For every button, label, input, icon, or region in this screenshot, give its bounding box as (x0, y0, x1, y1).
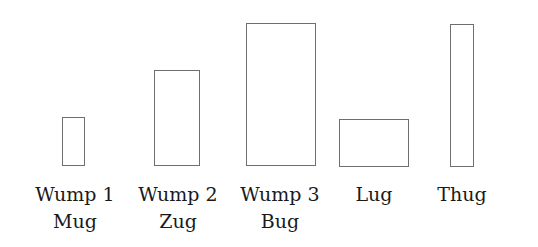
category-label-line-2: Bug (220, 208, 340, 235)
bar-wump-3-bug (246, 23, 316, 166)
bar-wump-1-mug (62, 117, 85, 166)
category-label-wump-1-mug: Wump 1 Mug (15, 181, 135, 235)
bar-thug (450, 24, 474, 167)
category-label-thug: Thug (402, 181, 522, 208)
bar-wump-2-zug (154, 70, 200, 166)
bar-chart: Wump 1 Mug Wump 2 Zug Wump 3 Bug Lug Thu… (0, 0, 538, 247)
category-label-line-1: Thug (402, 181, 522, 208)
bar-lug (339, 119, 409, 167)
category-label-line-2: Mug (15, 208, 135, 235)
category-label-line-1: Wump 1 (15, 181, 135, 208)
